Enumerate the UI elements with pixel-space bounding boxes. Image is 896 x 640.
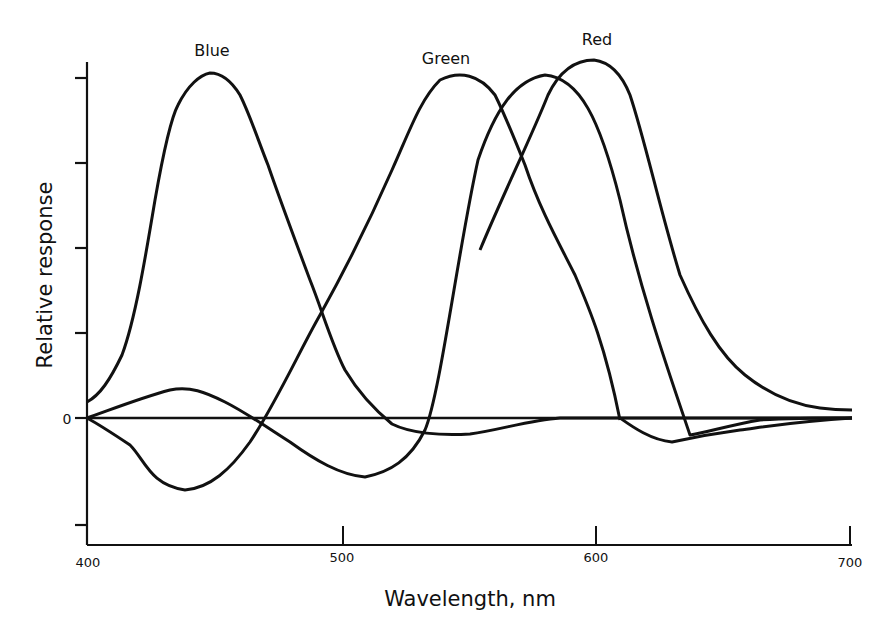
blue-curve <box>87 73 852 435</box>
x-tick-500: 500 <box>330 550 355 565</box>
x-tick-600: 600 <box>584 550 609 565</box>
y-zero-label: 0 <box>63 411 72 427</box>
chart-canvas: Blue Green Red 0 400 500 600 700 Wavelen… <box>0 0 896 640</box>
red-curve-label: Red <box>582 30 612 49</box>
x-tick-700: 700 <box>838 555 863 570</box>
red-curve-negative-lobe <box>620 418 852 442</box>
x-axis-label: Wavelength, nm <box>384 587 556 611</box>
green-curve-label: Green <box>422 49 470 68</box>
x-axis-ticks <box>343 526 850 545</box>
y-axis-label: Relative response <box>33 182 57 369</box>
x-tick-400: 400 <box>76 555 101 570</box>
red-curve-right <box>480 60 852 410</box>
blue-curve-label: Blue <box>194 41 229 60</box>
y-axis-ticks <box>75 78 87 525</box>
